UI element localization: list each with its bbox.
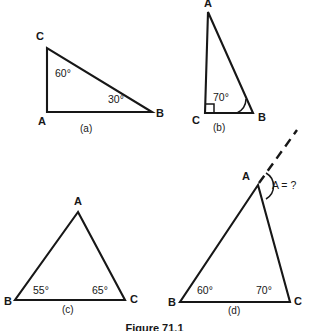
triangle-a-angle-c: 60° — [55, 68, 71, 79]
triangle-a-vertex-c-label: C — [36, 31, 44, 42]
panel-caption-b: (b) — [213, 123, 225, 133]
triangle-a-shape — [47, 48, 152, 112]
triangle-d-angle-b: 60° — [197, 285, 213, 296]
dashed-extension-ray — [259, 130, 297, 183]
panel-caption-d: (d) — [228, 306, 240, 316]
angle-arc-b — [237, 99, 246, 113]
triangle-d-angle-c: 70° — [256, 285, 272, 296]
triangle-a-vertex-a-label: A — [38, 116, 46, 127]
geometry-canvas — [0, 0, 309, 331]
triangle-a-outline — [47, 48, 152, 112]
triangle-a-angle-b: 30° — [108, 94, 124, 105]
panel-caption-a: (a) — [80, 124, 92, 134]
triangle-d-shape — [180, 130, 297, 302]
triangle-d-unknown-angle-label: A = ? — [272, 180, 296, 191]
triangle-d-vertex-a-label: A — [242, 171, 250, 182]
triangle-c-angle-c: 65° — [92, 285, 108, 296]
figure-container: C A B 60° 30° (a) A C B 70° (b) A B C 55… — [0, 0, 309, 331]
triangle-c-vertex-b-label: B — [4, 296, 12, 307]
right-angle-marker-c — [205, 104, 214, 113]
triangle-d-vertex-c-label: C — [294, 296, 302, 307]
triangle-c-vertex-c-label: C — [130, 294, 138, 305]
figure-caption: Figure 71.1 — [0, 322, 309, 331]
triangle-c-shape — [15, 212, 125, 300]
triangle-b-vertex-b-label: B — [258, 112, 266, 123]
triangle-b-angle-b: 70° — [213, 92, 229, 103]
triangle-a-vertex-b-label: B — [156, 108, 164, 119]
triangle-b-vertex-a-label: A — [204, 0, 212, 9]
panel-caption-c: (c) — [62, 305, 74, 315]
triangle-d-vertex-b-label: B — [168, 297, 176, 308]
triangle-c-outline — [15, 212, 125, 300]
triangle-b-vertex-c-label: C — [192, 115, 200, 126]
triangle-c-angle-b: 55° — [33, 285, 49, 296]
triangle-c-vertex-a-label: A — [74, 196, 82, 207]
